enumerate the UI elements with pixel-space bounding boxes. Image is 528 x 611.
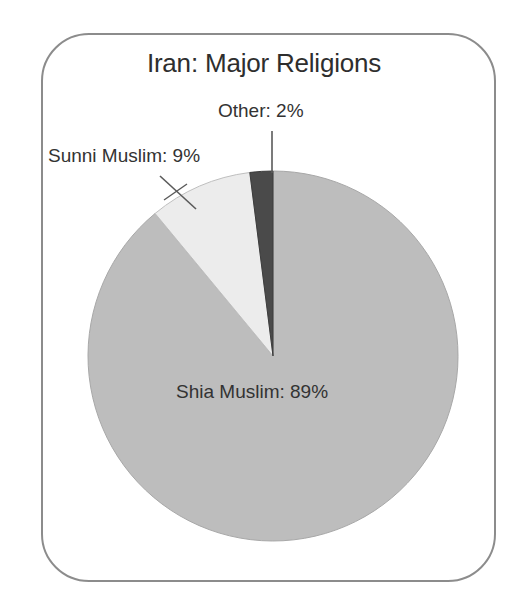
pie-chart [0, 0, 528, 611]
slice-label-sunni-muslim: Sunni Muslim: 9% [48, 145, 200, 167]
figure-root: Iran: Major Religions Other: 2% Sunni Mu… [0, 0, 528, 611]
slice-label-other: Other: 2% [218, 100, 304, 122]
slice-label-shia-muslim: Shia Muslim: 89% [176, 381, 328, 403]
